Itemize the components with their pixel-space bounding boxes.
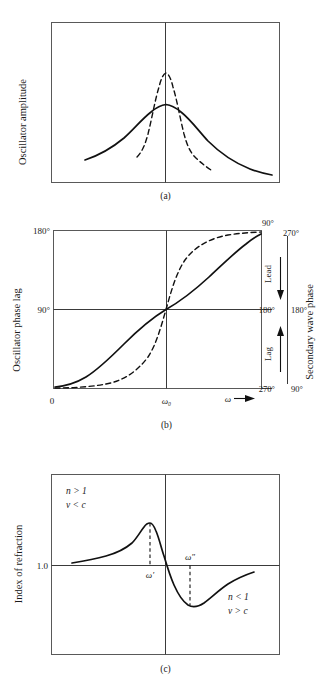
panel-b-lag-label: Lag — [263, 347, 273, 361]
panel-a-y-axis-title: Oscillator amplitude — [17, 79, 28, 165]
panel-b-caption: (b) — [161, 420, 172, 431]
panel-b-right-inner-tick-180: 180° — [259, 305, 275, 315]
panel-b-x-arrow-head — [245, 395, 255, 402]
panel-c-annotation-n-greater: n > 1 — [66, 486, 87, 496]
panel-b-curve-solid — [55, 234, 261, 387]
panel-c-marker-trough: ω″ — [185, 552, 195, 562]
panel-b-y-axis-title-left: Oscillator phase lag — [11, 288, 22, 372]
panel-b-lead-arrow-head — [277, 290, 284, 300]
panel-b-right-inner-tick-270: 270° — [259, 384, 275, 394]
panel-c-refraction: Index of refraction 1.0 n > 1 v < c n < … — [0, 442, 324, 681]
panel-c-marker-peak: ω′ — [146, 570, 155, 580]
panel-b-x-axis-symbol: ω — [225, 394, 231, 404]
panel-a-curve-dashed — [137, 73, 211, 170]
panel-c-annotation-n-less: n < 1 — [228, 592, 249, 602]
panel-c-annotation-v-greater: v > c — [228, 606, 248, 616]
physics-figure: Oscillator amplitude (a) Oscillator phas… — [0, 0, 324, 681]
panel-b-y-axis-title-right: Secondary wave phase — [304, 284, 315, 380]
panel-c-curve — [72, 523, 254, 607]
panel-b-left-tick-90: 90° — [37, 305, 50, 315]
panel-c-y-tick-unity: 1.0 — [37, 561, 49, 571]
panel-b-lag-arrow-head — [277, 326, 284, 336]
panel-b-phase: Oscillator phase lag Secondary wave phas… — [0, 212, 324, 442]
panel-c-annotation-v-less: v < c — [66, 500, 86, 510]
panel-b-left-tick-0: 0 — [50, 396, 55, 406]
panel-a-caption: (a) — [160, 191, 171, 202]
panel-b-left-tick-180: 180° — [33, 226, 51, 236]
panel-b-right-outer-tick-180: 180° — [291, 305, 307, 315]
panel-b-right-outer-tick-90: 90° — [291, 384, 303, 394]
panel-b-right-outer-tick-270: 270° — [283, 228, 299, 238]
panel-c-y-axis-title: Index of refraction — [13, 524, 24, 603]
panel-c-caption: (c) — [160, 664, 171, 675]
panel-b-right-inner-tick-90: 90° — [262, 218, 274, 228]
panel-a-amplitude: Oscillator amplitude (a) — [0, 0, 324, 212]
panel-a-curve-solid — [85, 105, 272, 176]
panel-b-lead-label: Lead — [263, 265, 273, 283]
panel-b-x-tick-resonance: ω₀ — [162, 396, 171, 406]
